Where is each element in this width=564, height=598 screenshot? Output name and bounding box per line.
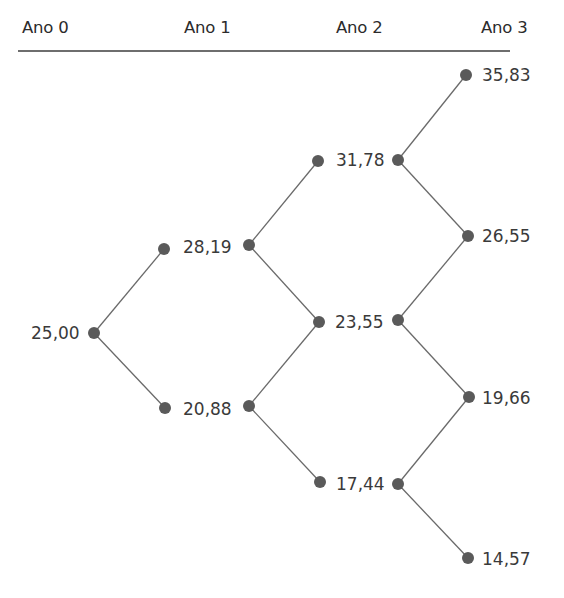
edge-n2ud-n3udd — [398, 320, 469, 397]
node-value-year3-ddd: 14,57 — [482, 549, 531, 569]
edge-n2dd-n3ddd — [398, 484, 468, 558]
edge-n1u-n2ud — [249, 245, 319, 322]
node-dot-n3uud — [462, 230, 474, 242]
tree-edges — [94, 75, 469, 558]
node-dot-n2ud-out — [392, 314, 404, 326]
binomial-tree-diagram: Ano 0 Ano 1 Ano 2 Ano 3 — [0, 0, 564, 598]
edge-n2ud-n3uud — [398, 236, 468, 320]
edge-n2dd-n3udd — [398, 397, 469, 484]
node-dot-n3ddd — [462, 552, 474, 564]
node-dot-n2dd-in — [314, 476, 326, 488]
node-value-year3-uud: 26,55 — [482, 226, 531, 246]
tree-nodes — [88, 69, 475, 564]
node-value-year0: 25,00 — [31, 323, 80, 343]
node-dot-n2uu-in — [312, 155, 324, 167]
node-dot-n3udd — [463, 391, 475, 403]
node-value-year1-down: 20,88 — [183, 399, 232, 419]
edge-n0-n1d — [94, 333, 165, 408]
edge-n1d-n2dd — [249, 406, 320, 482]
node-dot-n1d-out — [243, 400, 255, 412]
node-value-year2-updown: 23,55 — [335, 312, 384, 332]
node-dot-n0 — [88, 327, 100, 339]
node-dot-n1u-in — [158, 243, 170, 255]
node-dot-n1u-out — [243, 239, 255, 251]
edge-n2uu-n3uuu — [398, 75, 466, 160]
node-value-year2-upup: 31,78 — [336, 150, 385, 170]
edge-n2uu-n3uud — [398, 160, 468, 236]
node-value-year3-udd: 19,66 — [482, 388, 531, 408]
edge-n1d-n2ud — [249, 322, 319, 406]
edge-n0-n1u — [94, 249, 164, 333]
node-dot-n3uuu — [460, 69, 472, 81]
node-value-year2-downdown: 17,44 — [336, 474, 385, 494]
node-dot-n2uu-out — [392, 154, 404, 166]
node-dot-n2ud-in — [313, 316, 325, 328]
node-dot-n1d-in — [159, 402, 171, 414]
node-value-year3-uuu: 35,83 — [482, 65, 531, 85]
node-value-year1-up: 28,19 — [183, 237, 232, 257]
node-dot-n2dd-out — [392, 478, 404, 490]
edge-n1u-n2uu — [249, 161, 318, 245]
tree-graphic — [0, 0, 564, 598]
